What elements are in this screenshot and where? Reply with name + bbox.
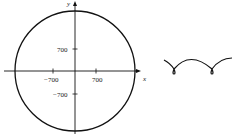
x-axis-arrow-icon xyxy=(136,69,141,73)
y-axis-arrow-icon xyxy=(73,1,77,6)
y-tick-pos: 700 xyxy=(57,46,68,54)
diagram-canvas: x y −700 700 700 −700 xyxy=(0,0,243,136)
cycloid-curve xyxy=(164,58,232,74)
x-tick-neg: −700 xyxy=(44,76,59,84)
x-axis-label: x xyxy=(142,75,147,83)
y-tick-neg: −700 xyxy=(53,91,68,99)
x-tick-pos: 700 xyxy=(92,76,103,84)
y-axis-label: y xyxy=(66,0,71,8)
circle-plot: x y −700 700 700 −700 xyxy=(4,0,147,134)
